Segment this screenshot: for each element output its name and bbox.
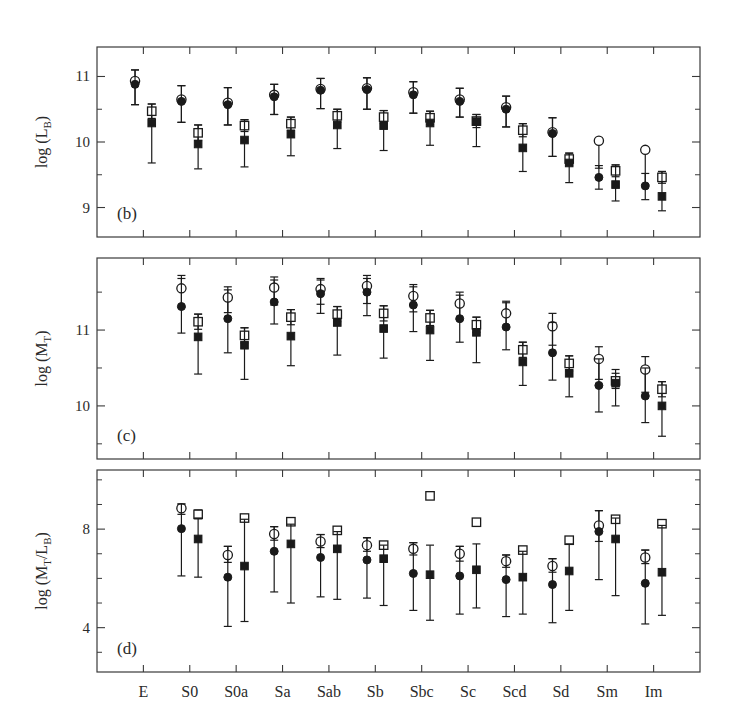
marker-filled-square bbox=[565, 567, 573, 575]
xtick-label-E: E bbox=[138, 683, 148, 700]
marker-filled-circle bbox=[270, 547, 278, 555]
marker-filled-circle bbox=[548, 129, 556, 137]
marker-filled-square bbox=[612, 535, 620, 543]
panel-label-d: (d) bbox=[117, 639, 137, 658]
marker-filled-square bbox=[194, 535, 202, 543]
series-c-filled-circle bbox=[177, 278, 649, 422]
xtick-label-Sd: Sd bbox=[552, 683, 569, 700]
marker-filled-circle bbox=[641, 182, 649, 190]
datapoint-b-filled-circle-S0 bbox=[177, 86, 185, 123]
marker-filled-square bbox=[194, 333, 202, 341]
marker-filled-square bbox=[612, 379, 620, 387]
marker-filled-square bbox=[658, 402, 666, 410]
marker-filled-square bbox=[241, 562, 249, 570]
marker-filled-square bbox=[473, 566, 481, 574]
panel-d: 48(d)log (MT/LB) bbox=[33, 470, 700, 672]
marker-filled-square bbox=[658, 568, 666, 576]
xtick-label-Sbc: Sbc bbox=[410, 683, 434, 700]
xtick-label-Im: Im bbox=[645, 683, 663, 700]
xtick-label-S0: S0 bbox=[181, 683, 198, 700]
marker-filled-circle bbox=[270, 93, 278, 101]
ytick-label-c: 10 bbox=[75, 398, 90, 414]
marker-filled-square bbox=[194, 140, 202, 148]
y-axis-title-c: log (MT) bbox=[33, 330, 53, 386]
datapoint-d-filled-square-Sc bbox=[472, 544, 480, 608]
marker-filled-square bbox=[519, 144, 527, 152]
datapoint-b-filled-circle-Sm bbox=[595, 166, 603, 190]
marker-filled-circle bbox=[409, 91, 417, 99]
datapoint-b-filled-circle-Sb bbox=[363, 78, 371, 109]
marker-filled-circle bbox=[595, 381, 603, 389]
marker-filled-square bbox=[241, 136, 249, 144]
datapoint-d-filled-square-Sab bbox=[333, 532, 341, 600]
marker-filled-circle bbox=[409, 569, 417, 577]
datapoint-b-filled-circle-Sd bbox=[548, 118, 556, 157]
datapoint-b-filled-circle-Sc bbox=[456, 88, 464, 117]
datapoint-b-filled-circle-Sa bbox=[270, 84, 278, 114]
marker-filled-square bbox=[380, 122, 388, 130]
xtick-label-Sb: Sb bbox=[367, 683, 384, 700]
marker-filled-square bbox=[565, 159, 573, 167]
marker-filled-circle bbox=[317, 86, 325, 94]
datapoint-d-filled-square-Sbc bbox=[426, 545, 434, 620]
xtick-label-Scd: Scd bbox=[502, 683, 526, 700]
xtick-label-Sa: Sa bbox=[275, 683, 291, 700]
marker-open-square bbox=[426, 492, 434, 500]
marker-filled-circle bbox=[177, 525, 185, 533]
xtick-label-S0a: S0a bbox=[224, 683, 248, 700]
xtick-label-Sm: Sm bbox=[597, 683, 619, 700]
marker-filled-circle bbox=[224, 101, 232, 109]
marker-filled-square bbox=[333, 545, 341, 553]
series-b-filled-square bbox=[148, 104, 666, 211]
marker-filled-circle bbox=[456, 97, 464, 105]
marker-filled-circle bbox=[363, 556, 371, 564]
datapoint-b-filled-circle-Im bbox=[641, 173, 649, 199]
marker-filled-circle bbox=[502, 105, 510, 113]
ytick-label-d: 4 bbox=[83, 620, 91, 636]
datapoint-d-open-square-Sd bbox=[565, 536, 573, 544]
datapoint-d-filled-square-S0 bbox=[194, 518, 202, 577]
datapoint-b-filled-square-Sc bbox=[472, 114, 480, 146]
marker-filled-square bbox=[287, 540, 295, 548]
datapoint-b-filled-circle-Sab bbox=[317, 78, 325, 108]
marker-filled-square bbox=[287, 130, 295, 138]
ytick-label-c: 11 bbox=[76, 322, 90, 338]
datapoint-b-filled-circle-Sbc bbox=[409, 82, 417, 113]
datapoint-b-filled-circle-Scd bbox=[502, 96, 510, 127]
marker-open-square bbox=[194, 510, 202, 518]
figure-container: 91011(b)log (LB)1011(c)log (MT)48(d)log … bbox=[0, 0, 740, 728]
marker-filled-square bbox=[380, 555, 388, 563]
marker-filled-circle bbox=[317, 290, 325, 298]
marker-open-circle bbox=[641, 145, 650, 154]
marker-filled-circle bbox=[131, 80, 139, 88]
datapoint-c-filled-square-Sm bbox=[612, 369, 620, 405]
ytick-label-d: 8 bbox=[83, 521, 91, 537]
marker-filled-square bbox=[473, 329, 481, 337]
xtick-label-Sc: Sc bbox=[460, 683, 476, 700]
marker-filled-circle bbox=[456, 572, 464, 580]
y-axis-title-d: log (MT/LB) bbox=[33, 532, 53, 610]
ytick-label-b: 10 bbox=[75, 134, 90, 150]
datapoint-d-filled-square-Sd bbox=[565, 544, 573, 611]
marker-filled-circle bbox=[548, 349, 556, 357]
marker-filled-circle bbox=[363, 86, 371, 94]
panel-b: 91011(b)log (LB) bbox=[33, 47, 700, 237]
y-axis-title-b: log (LB) bbox=[33, 116, 53, 168]
marker-open-square bbox=[565, 536, 573, 544]
xtick-label-Sab: Sab bbox=[317, 683, 341, 700]
marker-filled-circle bbox=[224, 573, 232, 581]
marker-filled-square bbox=[658, 193, 666, 201]
marker-filled-circle bbox=[595, 173, 603, 181]
marker-filled-square bbox=[519, 358, 527, 366]
marker-filled-square bbox=[426, 119, 434, 127]
datapoint-d-filled-square-Sb bbox=[380, 545, 388, 605]
datapoint-d-filled-square-S0a bbox=[241, 519, 249, 621]
marker-open-square bbox=[472, 518, 480, 526]
marker-filled-circle bbox=[641, 579, 649, 587]
marker-filled-circle bbox=[409, 301, 417, 309]
series-c-filled-square bbox=[194, 306, 666, 436]
marker-filled-square bbox=[426, 571, 434, 579]
marker-filled-circle bbox=[317, 553, 325, 561]
panel-frame-d bbox=[97, 470, 700, 672]
marker-filled-circle bbox=[363, 288, 371, 296]
